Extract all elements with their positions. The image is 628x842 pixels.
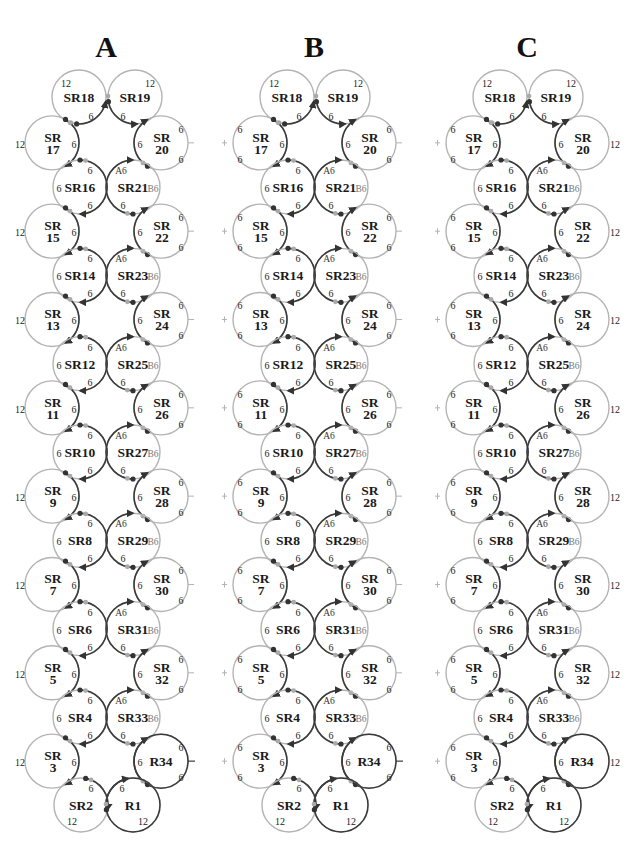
ring-label-bottom: 24 <box>363 318 377 333</box>
count-label: 6 <box>387 389 392 400</box>
ring-label: SR12 <box>273 357 304 372</box>
ring-label-bottom: 9 <box>258 495 265 510</box>
count-label: 6 <box>296 430 301 441</box>
count-label: 6 <box>179 242 184 253</box>
ring-label-bottom: 32 <box>363 672 377 687</box>
count-label: 6 <box>328 783 333 794</box>
ring-label-bottom: 11 <box>47 407 60 422</box>
count-label: 6 <box>559 404 564 415</box>
count-label: 6 <box>280 580 285 591</box>
a6-label: A6 <box>115 608 127 618</box>
count-label: 6 <box>88 288 93 299</box>
count-label: 6 <box>88 253 93 264</box>
ring-label: SR10 <box>273 445 304 460</box>
count-label: 6 <box>88 553 93 564</box>
count-label: 6 <box>72 757 77 768</box>
ring-label: SR33 <box>118 710 149 725</box>
panel-b: BSR18126SR19126SR17666SR20666SR16666SR21… <box>222 30 403 832</box>
ring-label-bottom: 26 <box>155 407 169 422</box>
count-label: 6 <box>57 271 62 282</box>
count-label: 6 <box>296 518 301 529</box>
count-label: 6 <box>57 183 62 194</box>
count-label: 6 <box>120 783 125 794</box>
count-label: 12 <box>610 315 620 326</box>
count-label: 6 <box>346 139 351 150</box>
a6-label: A6 <box>323 254 335 264</box>
count-label: 6 <box>238 124 243 135</box>
ring-label: SR21 <box>118 180 149 195</box>
count-label: 12 <box>15 404 25 415</box>
ring-label: SR8 <box>68 533 92 548</box>
ring-label: SR23 <box>326 268 357 283</box>
ring-sr2: SR2612 <box>475 776 529 832</box>
count-label: 6 <box>179 772 184 783</box>
a6-label: A6 <box>115 519 127 529</box>
count-label: 6 <box>451 742 456 753</box>
b6-label: B6 <box>568 361 579 371</box>
ring-label: SR23 <box>539 268 570 283</box>
count-label: 6 <box>238 212 243 223</box>
count-label: 6 <box>451 154 456 165</box>
a6-label: A6 <box>115 343 127 353</box>
ring-label-bottom: 5 <box>471 672 478 687</box>
ring-label: SR19 <box>328 90 359 105</box>
ring-label: SR10 <box>486 445 517 460</box>
b6-label: B6 <box>568 272 579 282</box>
count-label: 6 <box>88 465 93 476</box>
count-label: 6 <box>296 553 301 564</box>
count-label: 12 <box>610 492 620 503</box>
count-label: 6 <box>88 342 93 353</box>
count-label: 6 <box>57 360 62 371</box>
ring-label: SR2 <box>490 798 514 813</box>
b6-label: B6 <box>568 537 579 547</box>
count-label: 6 <box>88 607 93 618</box>
count-label: 6 <box>509 607 514 618</box>
count-label: 12 <box>269 78 279 89</box>
ring-label: SR27 <box>326 445 357 460</box>
count-label: 6 <box>559 315 564 326</box>
count-label: 6 <box>138 139 143 150</box>
ring-label: SR14 <box>273 268 304 283</box>
ring-label-bottom: 20 <box>576 142 590 157</box>
count-label: 12 <box>145 78 155 89</box>
count-label: 6 <box>57 713 62 724</box>
count-label: 6 <box>280 139 285 150</box>
count-label: 6 <box>138 580 143 591</box>
count-label: 6 <box>559 669 564 680</box>
ring-label-bottom: 22 <box>363 230 377 245</box>
count-label: 6 <box>542 288 547 299</box>
ring-label-bottom: 20 <box>363 142 377 157</box>
ring-label: SR16 <box>486 180 517 195</box>
count-label: 6 <box>509 730 514 741</box>
count-label: 6 <box>179 684 184 695</box>
ring-label: SR33 <box>326 710 357 725</box>
a6-label: A6 <box>115 166 127 176</box>
count-label: 6 <box>559 757 564 768</box>
a6-label: A6 <box>536 519 548 529</box>
count-label: 6 <box>493 404 498 415</box>
count-label: 6 <box>510 783 515 794</box>
a6-label: A6 <box>536 696 548 706</box>
a6-label: A6 <box>323 166 335 176</box>
count-label: 6 <box>509 465 514 476</box>
ring-label: SR6 <box>489 622 513 637</box>
count-label: 6 <box>179 654 184 665</box>
count-label: 6 <box>296 200 301 211</box>
count-label: 6 <box>542 730 547 741</box>
count-label: 6 <box>238 565 243 576</box>
ring-sr25: SR25A6B66 <box>527 337 581 394</box>
ring-label: R34 <box>149 754 172 769</box>
ring-sr2: SR2612 <box>262 776 316 832</box>
count-label: 12 <box>566 78 576 89</box>
count-label: 6 <box>451 330 456 341</box>
count-label: 6 <box>509 553 514 564</box>
ring-label: SR19 <box>541 90 572 105</box>
ring-sr31: SR31A6B66 <box>106 602 160 659</box>
ring-sr19: SR19126 <box>106 70 162 124</box>
ring-sr27: SR27A6B66 <box>527 425 581 482</box>
count-label: 12 <box>610 580 620 591</box>
count-label: 6 <box>451 124 456 135</box>
count-label: 6 <box>387 212 392 223</box>
a6-label: A6 <box>536 254 548 264</box>
ring-sr25: SR25A6B66 <box>106 337 160 394</box>
